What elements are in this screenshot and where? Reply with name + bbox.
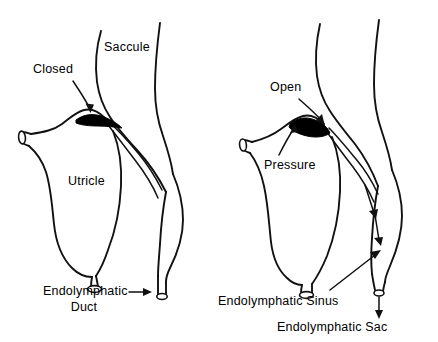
- flow-arrow-lower-line: [375, 215, 379, 240]
- saccule-right-wall-open: [374, 20, 392, 170]
- anatomical-figure: Closed Saccule Utricle Endolymphatic Duc…: [0, 0, 438, 342]
- flow-arrow-exit-head: [375, 310, 383, 319]
- endolymphatic-sinus-label: Endolymphatic Sinus: [218, 294, 339, 309]
- endolymphatic-duct-inner-line-1-open: [329, 128, 378, 194]
- pressure-pointer-line: [279, 130, 293, 155]
- endolymphatic-sac-label: Endolymphatic Sac: [277, 320, 387, 335]
- utricle-nub-opening-open: [239, 139, 247, 152]
- open-label: Open: [270, 80, 301, 95]
- endolymphatic-duct-label-line1: Endolymphatic: [43, 284, 128, 299]
- endolymphatic-sac-tube-left: [372, 274, 375, 290]
- utricle-label: Utricle: [68, 174, 105, 189]
- utricle-right-wall-open: [312, 137, 340, 284]
- flow-arrow-lower-head: [374, 237, 383, 246]
- closed-label: Closed: [33, 62, 73, 77]
- endolymphatic-sinus-pointer-line: [330, 255, 375, 290]
- endolymphatic-duct-label-line2: Duct: [43, 300, 125, 315]
- endolymphatic-sac-opening: [374, 290, 384, 296]
- pressure-label: Pressure: [264, 158, 316, 173]
- endolymphatic-sac-right-wall-open: [385, 170, 402, 282]
- saccule-label: Saccule: [104, 40, 150, 55]
- saccule-left-wall-open: [316, 24, 378, 186]
